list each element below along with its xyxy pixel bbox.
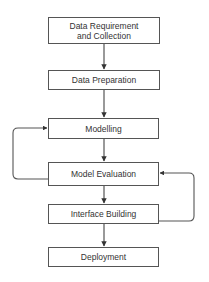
- arrow-loop-n4-n3: [13, 128, 48, 179]
- node-data-requirement: Data Requirement and Collection: [48, 17, 160, 44]
- node-deployment: Deployment: [48, 247, 159, 267]
- node-interface-building: Interface Building: [48, 204, 159, 224]
- node-model-evaluation: Model Evaluation: [48, 162, 159, 186]
- node-data-preparation: Data Preparation: [48, 70, 160, 90]
- arrow-loop-n5-n4: [159, 173, 194, 221]
- node-modelling: Modelling: [48, 118, 159, 139]
